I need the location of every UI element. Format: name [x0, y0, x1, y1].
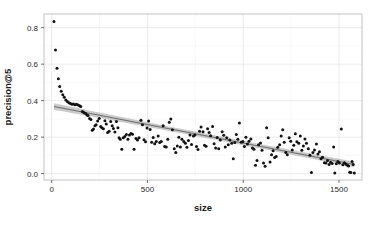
data-point [52, 20, 55, 23]
data-point [352, 163, 355, 166]
data-point [149, 128, 152, 131]
data-point [150, 141, 153, 144]
data-point [198, 130, 201, 133]
data-point [249, 137, 252, 140]
y-axis-title: precision@5 [2, 68, 13, 125]
data-point [225, 136, 228, 139]
data-point [171, 128, 174, 131]
data-point [211, 125, 214, 128]
data-point [318, 150, 321, 153]
data-point [286, 153, 289, 156]
data-point [147, 120, 150, 123]
x-axis-title: size [194, 202, 212, 213]
data-point [96, 120, 99, 123]
data-point [233, 141, 236, 144]
data-point [338, 162, 341, 165]
data-point [347, 164, 350, 167]
data-point [111, 124, 114, 127]
data-point [244, 136, 247, 139]
data-point [276, 146, 279, 149]
data-point [214, 147, 217, 150]
data-point [188, 133, 191, 136]
x-tick-label: 500 [141, 185, 155, 194]
data-point [292, 144, 295, 147]
data-point [63, 96, 66, 99]
data-point [326, 159, 329, 162]
data-point [141, 123, 144, 126]
data-point [205, 145, 208, 148]
data-point [176, 144, 179, 147]
data-point [288, 136, 291, 139]
data-point [349, 171, 352, 174]
data-point [138, 136, 141, 139]
data-point [221, 130, 224, 133]
data-point [108, 130, 111, 133]
data-point [115, 120, 118, 123]
data-point [353, 171, 356, 174]
data-point [146, 127, 149, 130]
data-point [56, 67, 59, 70]
data-point [307, 147, 310, 150]
data-point [185, 146, 188, 149]
data-point [187, 139, 190, 142]
data-point [95, 123, 98, 126]
data-point [311, 151, 314, 154]
data-point [58, 85, 61, 88]
data-point [262, 162, 265, 165]
data-point [119, 138, 122, 141]
data-point [241, 140, 244, 143]
data-point [351, 160, 354, 163]
y-tick-label: 0.0 [27, 170, 39, 179]
data-point [197, 148, 200, 151]
data-point [259, 141, 262, 144]
data-point [202, 130, 205, 133]
x-tick-label: 1500 [330, 185, 348, 194]
data-point [227, 143, 230, 146]
data-point [217, 147, 220, 150]
data-point [131, 133, 134, 136]
y-tick-label: 0.6 [27, 60, 39, 69]
data-point [281, 128, 284, 131]
data-point [269, 160, 272, 163]
data-point [190, 143, 193, 146]
data-point [219, 139, 222, 142]
data-point [275, 155, 278, 158]
data-point [321, 156, 324, 159]
data-point [267, 136, 270, 139]
data-point [184, 142, 187, 145]
data-point [313, 148, 316, 151]
data-point [303, 137, 306, 140]
data-point [216, 136, 219, 139]
data-point [243, 145, 246, 148]
data-point [109, 120, 112, 123]
y-tick-label: 0.8 [27, 24, 39, 33]
data-point [254, 164, 257, 167]
data-point [125, 133, 128, 136]
x-tick-label: 1000 [234, 185, 252, 194]
data-point [105, 123, 108, 126]
data-point [200, 125, 203, 128]
data-point [174, 151, 177, 154]
data-point [98, 117, 101, 120]
data-point [208, 131, 211, 134]
data-point [331, 162, 334, 165]
data-point [206, 127, 209, 130]
data-point [133, 148, 136, 151]
data-point [238, 121, 241, 124]
data-point [305, 142, 308, 145]
data-point [310, 171, 313, 174]
data-point [152, 136, 155, 139]
data-point [79, 105, 82, 108]
data-point [333, 171, 336, 174]
data-point [213, 142, 216, 145]
data-point [54, 48, 57, 51]
data-point [246, 143, 249, 146]
data-point [139, 119, 142, 122]
data-point [252, 148, 255, 151]
data-point [155, 140, 158, 143]
data-point [173, 147, 176, 150]
data-point [169, 117, 172, 120]
data-point [195, 145, 198, 148]
data-point [261, 149, 264, 152]
data-point [324, 162, 327, 165]
